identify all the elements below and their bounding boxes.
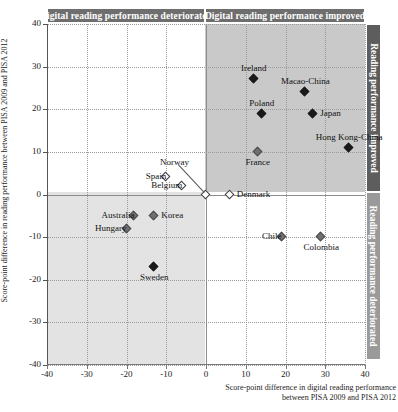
gridline-horizontal-40	[47, 24, 365, 25]
x-tick-label-40: 40	[350, 369, 380, 379]
y-tick-label-30: 30	[15, 61, 41, 71]
gridline-horizontal-10	[47, 152, 365, 153]
x-tick-label--30: -30	[72, 369, 102, 379]
y-tick-label--30: -30	[15, 316, 41, 326]
x-tick-mark--40	[47, 365, 48, 369]
y-tick-mark-0	[43, 195, 47, 196]
data-point-label: Japan	[320, 108, 341, 118]
y-tick-mark-40	[43, 24, 47, 25]
x-tick-mark-20	[286, 365, 287, 369]
x-tick-mark--10	[166, 365, 167, 369]
x-tick-label-10: 10	[231, 369, 261, 379]
x-axis-title-line1: Score-point difference in digital readin…	[200, 383, 396, 393]
data-point-label: Chile	[262, 231, 282, 241]
x-axis-title: Score-point difference in digital readin…	[200, 383, 396, 403]
y-axis-title: Score-point difference in reading perfor…	[0, 0, 10, 341]
data-point-label: Colombia	[304, 242, 340, 252]
y-tick-mark-10	[43, 152, 47, 153]
plot-area: IrelandMacao-ChinaPolandJapanHong Kong-C…	[47, 24, 365, 365]
x-tick-label-30: 30	[310, 369, 340, 379]
data-point-label: Hungary	[95, 223, 127, 233]
x-tick-mark--20	[127, 365, 128, 369]
x-tick-label--40: -40	[32, 369, 62, 379]
data-point-label: Ireland	[241, 63, 266, 73]
x-axis-title-line2: between PISA 2009 and PISA 2012	[200, 393, 396, 403]
x-tick-label-20: 20	[271, 369, 301, 379]
data-point-label: Macao-China	[281, 76, 330, 86]
quadrant-header-deteriorated: Digital reading performance deteriorated	[47, 8, 205, 23]
quadrant-header-improved: Digital reading performance improved	[205, 8, 365, 23]
data-point-label: Belgium	[151, 180, 182, 190]
gridline-horizontal-30	[47, 67, 365, 68]
data-point-label: Korea	[161, 210, 183, 220]
side-band-improved: Reading performance improved	[366, 24, 381, 192]
side-band-improved-label: Reading performance improved	[369, 43, 379, 173]
data-point-label: Australia	[101, 210, 134, 220]
y-tick-label-10: 10	[15, 146, 41, 156]
y-tick-mark--30	[43, 322, 47, 323]
data-point-label: Sweden	[140, 272, 169, 282]
y-tick-label--10: -10	[15, 231, 41, 241]
y-tick-mark--10	[43, 237, 47, 238]
x-tick-label--20: -20	[112, 369, 142, 379]
chart-root: Digital reading performance deteriorated…	[0, 0, 398, 412]
y-tick-mark-30	[43, 67, 47, 68]
y-tick-label-40: 40	[15, 18, 41, 28]
y-tick-mark-20	[43, 109, 47, 110]
data-point-label: France	[245, 157, 270, 167]
y-axis-title-text: Score-point difference in reading perfor…	[0, 38, 9, 302]
y-axis-line	[47, 24, 48, 365]
data-point-label: Hong Kong-China	[316, 132, 383, 142]
gridline-horizontal--20	[47, 280, 365, 281]
y-tick-mark--20	[43, 280, 47, 281]
side-band-deteriorated-label: Reading performance deteriorated	[369, 206, 379, 347]
x-tick-mark--30	[87, 365, 88, 369]
y-tick-label--20: -20	[15, 274, 41, 284]
x-tick-mark-0	[206, 365, 207, 369]
x-tick-label-0: 0	[191, 369, 221, 379]
data-point-label: Denmark	[237, 189, 271, 199]
side-band-deteriorated: Reading performance deteriorated	[366, 192, 381, 360]
y-tick-label-20: 20	[15, 103, 41, 113]
gridline-horizontal-20	[47, 109, 365, 110]
gridline-horizontal--30	[47, 322, 365, 323]
data-point-label: Norway	[160, 157, 189, 167]
y-tick-label--40: -40	[15, 359, 41, 369]
data-point-label: Poland	[249, 98, 274, 108]
gridline-vertical-40	[365, 24, 366, 365]
x-tick-mark-40	[365, 365, 366, 369]
x-tick-mark-10	[246, 365, 247, 369]
x-tick-mark-30	[325, 365, 326, 369]
y-tick-label-0: 0	[15, 189, 41, 199]
x-tick-label--10: -10	[151, 369, 181, 379]
marker-diamond-icon	[316, 232, 326, 242]
